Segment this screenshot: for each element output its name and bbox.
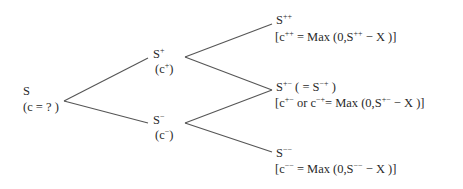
up-price: S+ bbox=[153, 47, 164, 61]
upup-formula: [c++ = Max (0,S++ − X )] bbox=[275, 30, 396, 44]
updown-formula: [c+− or c−+= Max (0,S+− − X )] bbox=[275, 96, 425, 110]
tree-edges bbox=[0, 0, 463, 189]
root-price: S bbox=[23, 84, 30, 98]
down-price: S− bbox=[153, 113, 164, 127]
edge-up-updown bbox=[185, 57, 272, 90]
edge-down-downdown bbox=[185, 123, 272, 152]
edge-up-upup bbox=[185, 24, 272, 57]
updown-price: S+− ( = S−+ ) bbox=[276, 80, 336, 94]
root-value: (c = ? ) bbox=[23, 100, 59, 114]
up-value: (c+) bbox=[155, 62, 173, 76]
upup-price: S++ bbox=[276, 13, 292, 27]
edge-root-up bbox=[64, 58, 148, 101]
edge-down-updown bbox=[185, 90, 272, 123]
downdown-formula: [c−− = Max (0,S−− − X )] bbox=[275, 162, 396, 176]
down-value: (c−) bbox=[155, 128, 173, 142]
downdown-price: S−− bbox=[276, 146, 292, 160]
edge-root-down bbox=[64, 101, 148, 123]
